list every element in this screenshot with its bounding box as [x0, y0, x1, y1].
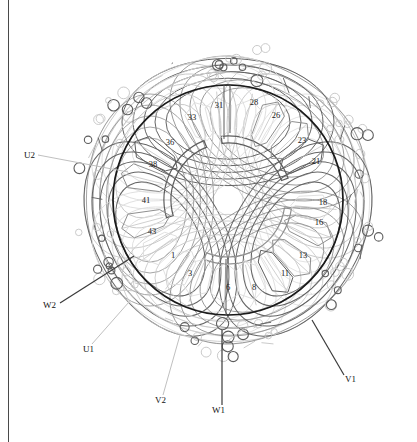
stator-winding-diagram: 33312826232118161311863143413836 U2W2U1V… — [0, 0, 417, 442]
slot-number-36: 36 — [166, 137, 175, 147]
terminal-w2-label: W2 — [43, 300, 56, 310]
slot-number-43: 43 — [148, 226, 157, 236]
slot-number-38: 38 — [149, 159, 158, 169]
toroidal-winding-layer — [52, 24, 403, 375]
slot-number-28: 28 — [250, 97, 259, 107]
slot-number-3: 3 — [188, 268, 192, 278]
slot-number-31: 31 — [215, 100, 224, 110]
slot-number-11: 11 — [281, 268, 289, 278]
slot-number-23: 23 — [298, 135, 307, 145]
slot-number-18: 18 — [319, 197, 328, 207]
terminal-v2-label: V2 — [155, 395, 166, 405]
winding-node-layer — [74, 44, 383, 362]
terminal-w1-label: W1 — [212, 405, 225, 415]
slot-number-26: 26 — [272, 110, 281, 120]
slot-number-6: 6 — [226, 282, 230, 292]
slot-number-8: 8 — [252, 282, 256, 292]
terminal-u1-label: U1 — [83, 344, 94, 354]
figure-canvas: 33312826232118161311863143413836 U2W2U1V… — [0, 0, 417, 442]
terminal-u2-label: U2 — [24, 150, 35, 160]
slot-number-21: 21 — [312, 156, 321, 166]
slot-number-16: 16 — [315, 217, 324, 227]
terminal-v1-label: V1 — [345, 374, 356, 384]
slot-number-33: 33 — [188, 112, 197, 122]
slot-number-1: 1 — [171, 250, 175, 260]
slot-number-13: 13 — [299, 250, 308, 260]
slot-number-41: 41 — [142, 195, 151, 205]
